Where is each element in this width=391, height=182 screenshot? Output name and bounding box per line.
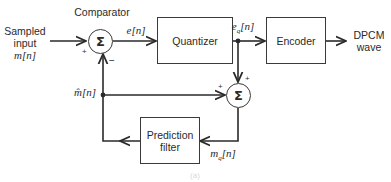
eq-tail: [n] xyxy=(240,20,254,32)
encoder-label: Encoder xyxy=(276,35,315,47)
input-label-line1: Sampled xyxy=(2,25,48,37)
quantizer-label: Quantizer xyxy=(172,35,218,47)
comparator-sum-node: Σ xyxy=(88,29,113,54)
output-label-line1: DPCM xyxy=(350,29,388,41)
prediction-signal-label: m̂[n] xyxy=(70,86,100,98)
sigma-icon: Σ xyxy=(96,34,105,49)
prediction-filter-line1: Prediction xyxy=(147,129,194,141)
quantizer-block: Quantizer xyxy=(157,17,233,64)
input-signal-label: m[n] xyxy=(2,49,48,61)
mq-to-filter-arrow xyxy=(200,108,238,141)
encoder-block: Encoder xyxy=(266,17,326,64)
reconstructed-signal-label: mq[n] xyxy=(206,147,240,164)
junction-dot-prediction xyxy=(101,93,106,98)
output-label-line2: wave xyxy=(350,41,388,53)
error-signal-label: e[n] xyxy=(122,24,150,36)
mq-base: m xyxy=(210,147,218,159)
comparator-label: Comparator xyxy=(72,6,132,18)
comparator-plus-sign: + xyxy=(82,48,87,56)
output-label: DPCM wave xyxy=(350,29,388,53)
input-label-line2: input xyxy=(2,37,48,49)
junction-dot-eq xyxy=(236,39,241,44)
mq-tail: [n] xyxy=(222,147,236,159)
input-label: Sampled input m[n] xyxy=(2,25,48,61)
sigma-icon: Σ xyxy=(234,88,243,103)
adder-sum-node: Σ xyxy=(226,83,251,108)
quantized-error-label: eq[n] xyxy=(226,20,260,37)
figure-caption: (a) xyxy=(185,170,205,182)
prediction-filter-block: Prediction filter xyxy=(140,117,200,164)
comparator-minus-sign: − xyxy=(109,57,115,65)
filter-output-wire xyxy=(103,95,140,141)
adder-plus-top: + xyxy=(245,75,250,83)
adder-plus-left: + xyxy=(218,83,223,91)
prediction-filter-line2: filter xyxy=(147,141,194,153)
